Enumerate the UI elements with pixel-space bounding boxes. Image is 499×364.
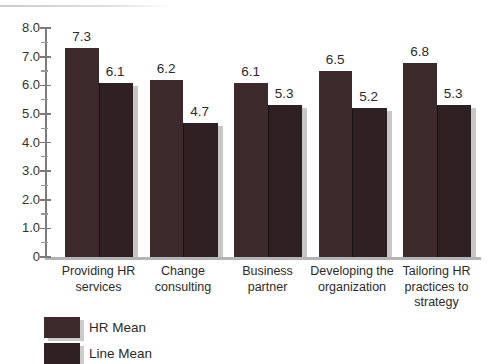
bar-value-label: 5.3: [431, 86, 475, 101]
y-tick-minor: [41, 213, 48, 214]
y-tick-label: 0: [6, 249, 40, 265]
bar-value-label: 6.8: [398, 44, 442, 59]
bar-value-label: 5.2: [347, 89, 391, 104]
y-tick-major: [40, 142, 51, 144]
bar-value-label: 6.1: [229, 64, 273, 79]
y-tick-minor: [41, 156, 48, 157]
y-tick-label: 8.0: [6, 20, 40, 36]
bar-value-label: 6.5: [313, 52, 357, 67]
y-tick-major: [40, 56, 51, 58]
y-tick-major: [40, 170, 51, 172]
y-tick-minor: [41, 70, 48, 71]
category-label: Tailoring HR practices to strategy: [380, 264, 494, 311]
bar-line-mean-3: [352, 108, 387, 257]
y-tick-label: 2.0: [6, 192, 40, 208]
bar-value-label: 6.2: [144, 61, 188, 76]
bar-line-mean-2: [268, 105, 303, 257]
y-tick-minor: [41, 185, 48, 186]
bar-chart-figure: 01.02.03.04.05.06.07.08.07.36.26.16.56.8…: [0, 0, 499, 364]
bar-value-label: 6.1: [93, 64, 137, 79]
bar-line-mean-0: [99, 83, 134, 257]
x-axis-line: [45, 257, 481, 260]
bar-line-mean-4: [437, 105, 472, 257]
bar-value-label: 5.3: [262, 86, 306, 101]
y-tick-major: [40, 228, 51, 230]
y-tick-minor: [41, 128, 48, 129]
bar-hr-mean-0: [65, 48, 99, 257]
y-tick-label: 6.0: [6, 77, 40, 93]
y-tick-minor: [41, 242, 48, 243]
y-tick-major: [40, 27, 51, 29]
y-tick-major: [40, 113, 51, 115]
y-tick-minor: [41, 42, 48, 43]
y-tick-label: 3.0: [6, 163, 40, 179]
y-tick-major: [40, 85, 51, 87]
y-tick-major: [40, 256, 51, 258]
bar-line-mean-1: [183, 123, 218, 257]
y-tick-major: [40, 199, 51, 201]
y-tick-label: 7.0: [6, 49, 40, 65]
y-tick-minor: [41, 99, 48, 100]
bar-hr-mean-2: [234, 83, 268, 257]
y-tick-label: 1.0: [6, 220, 40, 236]
plot-area: 01.02.03.04.05.06.07.08.07.36.26.16.56.8…: [0, 0, 499, 364]
bar-value-label: 7.3: [60, 29, 104, 44]
y-tick-label: 4.0: [6, 135, 40, 151]
bar-value-label: 4.7: [178, 104, 222, 119]
y-tick-label: 5.0: [6, 106, 40, 122]
